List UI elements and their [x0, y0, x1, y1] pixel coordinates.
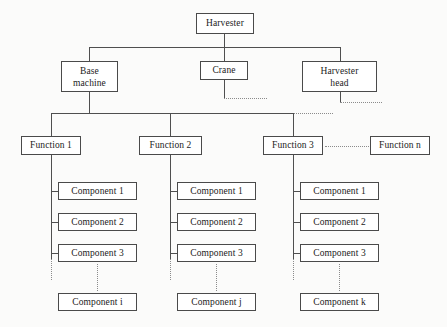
connector-function-1-stub-3 — [51, 253, 58, 254]
connector-base-machine-stem — [89, 92, 90, 113]
node-f3-component-1[interactable]: Component 1 — [300, 182, 379, 200]
connector-function-1-stub-1 — [51, 191, 58, 192]
connector-function-3-stub-1 — [293, 191, 300, 192]
harvester-structure-diagram: Harvester Base machine Crane Harvester h… — [0, 0, 447, 327]
node-f3-component-1-label: Component 1 — [313, 186, 366, 197]
connector-drop-harvester-head — [340, 47, 341, 61]
node-function-3-label: Function 3 — [272, 140, 314, 151]
node-f2-component-last[interactable]: Component j — [177, 293, 256, 311]
node-harvester-head-label-line1: Harvester — [321, 65, 359, 77]
connector-function-bus — [51, 113, 293, 114]
node-f2-component-2-label: Component 2 — [190, 217, 243, 228]
connector-function-2-trunk — [170, 155, 171, 259]
node-f2-component-1[interactable]: Component 1 — [177, 182, 256, 200]
node-f1-component-3[interactable]: Component 3 — [58, 244, 137, 262]
node-f2-component-last-label: Component j — [191, 297, 241, 308]
connector-function3-to-functionn-dotted — [325, 146, 369, 147]
connector-drop-function-3 — [293, 113, 294, 136]
node-f2-component-3-label: Component 3 — [190, 248, 243, 259]
node-function-n-label: Function n — [379, 140, 421, 151]
node-f1-component-2[interactable]: Component 2 — [58, 213, 137, 231]
connector-drop-base-machine — [89, 47, 90, 61]
connector-function-1-trunk-dotted — [51, 259, 52, 280]
connector-f2-ellipsis-dotted — [216, 264, 217, 291]
node-f1-component-3-label: Component 3 — [71, 248, 124, 259]
connector-function-3-stub-3 — [293, 253, 300, 254]
node-harvester[interactable]: Harvester — [196, 13, 254, 34]
node-f3-component-2[interactable]: Component 2 — [300, 213, 379, 231]
node-harvester-label: Harvester — [206, 18, 244, 29]
connector-f3-ellipsis-dotted — [339, 264, 340, 291]
connector-function-bus-dotted — [293, 113, 333, 114]
connector-drop-function-2 — [170, 113, 171, 136]
connector-function-3-trunk — [293, 155, 294, 259]
connector-crane-stem — [224, 80, 225, 98]
node-f1-component-2-label: Component 2 — [71, 217, 124, 228]
node-base-machine-label-line2: machine — [73, 77, 106, 89]
connector-top-bus — [89, 47, 341, 48]
connector-function-3-stub-2 — [293, 222, 300, 223]
node-f3-component-3-label: Component 3 — [313, 248, 366, 259]
connector-function-2-stub-3 — [170, 253, 177, 254]
node-crane-label: Crane — [212, 65, 235, 76]
node-f3-component-last[interactable]: Component k — [300, 293, 379, 311]
node-base-machine[interactable]: Base machine — [61, 61, 118, 92]
connector-harvester-head-dotted-continuation — [340, 102, 382, 103]
node-function-n[interactable]: Function n — [370, 136, 430, 155]
node-function-1[interactable]: Function 1 — [21, 136, 81, 155]
node-f1-component-last[interactable]: Component i — [58, 293, 137, 311]
node-harvester-head-label-line2: head — [330, 77, 348, 89]
node-f1-component-1[interactable]: Component 1 — [58, 182, 137, 200]
connector-root-stem — [224, 34, 225, 47]
connector-harvester-head-stem — [340, 92, 341, 102]
connector-function-2-stub-1 — [170, 191, 177, 192]
node-base-machine-label-line1: Base — [80, 65, 99, 77]
node-f3-component-2-label: Component 2 — [313, 217, 366, 228]
node-f1-component-1-label: Component 1 — [71, 186, 124, 197]
node-function-3[interactable]: Function 3 — [263, 136, 323, 155]
connector-function-1-stub-2 — [51, 222, 58, 223]
node-function-2[interactable]: Function 2 — [139, 136, 202, 155]
connector-function-2-stub-2 — [170, 222, 177, 223]
node-f3-component-last-label: Component k — [313, 297, 366, 308]
node-function-2-label: Function 2 — [150, 140, 192, 151]
node-f2-component-1-label: Component 1 — [190, 186, 243, 197]
node-f2-component-2[interactable]: Component 2 — [177, 213, 256, 231]
connector-function-2-trunk-dotted — [170, 259, 171, 280]
node-function-1-label: Function 1 — [30, 140, 72, 151]
node-harvester-head[interactable]: Harvester head — [302, 61, 377, 92]
connector-drop-crane — [224, 47, 225, 61]
node-f1-component-last-label: Component i — [72, 297, 122, 308]
connector-function-1-trunk — [51, 155, 52, 259]
connector-drop-function-1 — [51, 113, 52, 136]
connector-crane-dotted-continuation — [224, 98, 267, 99]
node-f3-component-3[interactable]: Component 3 — [300, 244, 379, 262]
node-crane[interactable]: Crane — [200, 61, 248, 80]
node-f2-component-3[interactable]: Component 3 — [177, 244, 256, 262]
connector-function-3-trunk-dotted — [293, 259, 294, 280]
connector-f1-ellipsis-dotted — [97, 264, 98, 291]
